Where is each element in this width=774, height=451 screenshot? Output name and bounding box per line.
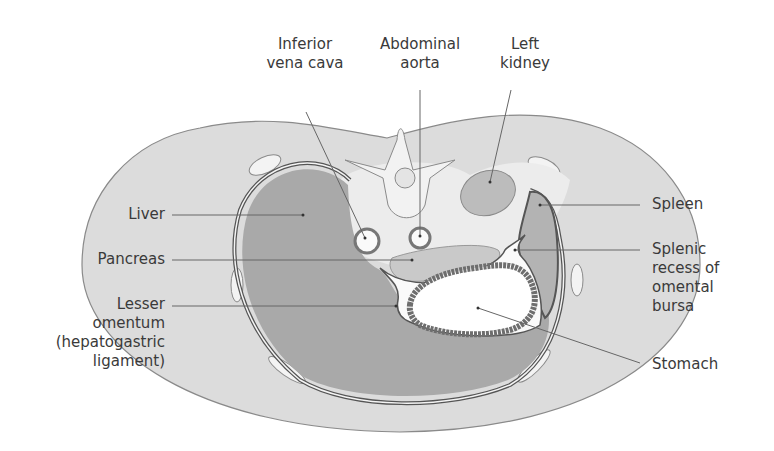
- label-line: Stomach: [652, 355, 718, 374]
- label-line: Lesser: [20, 295, 165, 314]
- label-lesser-omentum: Lesser omentum (hepatogastric ligament): [20, 295, 165, 371]
- label-left-kidney: Left kidney: [470, 35, 580, 73]
- label-stomach: Stomach: [652, 355, 718, 374]
- label-line: Spleen: [652, 195, 703, 214]
- label-line: Left: [470, 35, 580, 54]
- label-line: (hepatogastric: [20, 333, 165, 352]
- label-pancreas: Pancreas: [40, 250, 165, 269]
- label-line: Inferior: [240, 35, 370, 54]
- label-line: kidney: [470, 54, 580, 73]
- label-abdominal-aorta: Abdominal aorta: [360, 35, 480, 73]
- label-spleen: Spleen: [652, 195, 703, 214]
- label-line: recess of: [652, 259, 719, 278]
- label-line: vena cava: [240, 54, 370, 73]
- label-line: omentum: [20, 314, 165, 333]
- label-line: Pancreas: [40, 250, 165, 269]
- label-inferior-vena-cava: Inferior vena cava: [240, 35, 370, 73]
- label-line: ligament): [20, 352, 165, 371]
- label-splenic-recess: Splenic recess of omental bursa: [652, 240, 719, 316]
- label-line: Splenic: [652, 240, 719, 259]
- label-line: aorta: [360, 54, 480, 73]
- label-line: bursa: [652, 297, 719, 316]
- inferior-vena-cava: [355, 229, 379, 253]
- label-line: omental: [652, 278, 719, 297]
- label-liver: Liver: [40, 205, 165, 224]
- label-line: Abdominal: [360, 35, 480, 54]
- label-line: Liver: [40, 205, 165, 224]
